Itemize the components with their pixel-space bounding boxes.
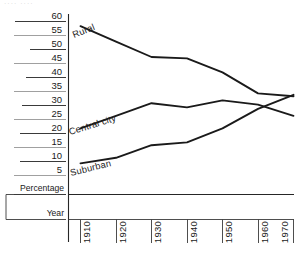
y-tick-label: 35 (51, 80, 62, 91)
y-tick-label: 45 (51, 52, 62, 63)
series-lines (81, 26, 294, 163)
y-axis-title: Percentage (20, 183, 64, 193)
x-tick-label: 1940 (188, 221, 199, 243)
y-tick-labels: 60 55 50 45 40 35 30 25 20 15 10 5 (51, 10, 62, 175)
x-tick-label: 1970 (279, 221, 290, 243)
y-tick-label: 20 (51, 122, 62, 133)
x-tick-label: 1950 (223, 221, 234, 243)
y-tick-label: 40 (51, 66, 62, 77)
line-chart-canvas: 60 55 50 45 40 35 30 25 20 15 10 5 Perce… (0, 0, 300, 265)
y-tick-label: 60 (51, 10, 62, 21)
chart-figure: ···· ···· 60 55 50 (0, 0, 300, 265)
series-annotations: Rural Central city Suburban (68, 22, 118, 178)
y-tick-label: 55 (51, 24, 62, 35)
plot-axes (69, 14, 295, 242)
y-tick-label: 50 (51, 38, 62, 49)
x-tick-label: 1910 (81, 221, 92, 243)
x-tick-label: 1960 (259, 221, 270, 243)
series-label-central-city: Central city (68, 113, 118, 137)
x-tick-label: 1920 (117, 221, 128, 243)
x-tick-labels: 1910 1920 1930 1940 1950 1960 1970 (81, 221, 290, 243)
series-label-rural: Rural (71, 22, 96, 40)
x-axis-title: Year (47, 208, 65, 218)
y-tick-label: 10 (51, 150, 62, 161)
y-tick-label: 5 (57, 164, 62, 175)
y-tick-label: 25 (51, 108, 62, 119)
y-tick-label: 30 (51, 94, 62, 105)
y-tick-label: 15 (51, 136, 62, 147)
x-tick-label: 1930 (152, 221, 163, 243)
series-line-rural (81, 26, 294, 96)
